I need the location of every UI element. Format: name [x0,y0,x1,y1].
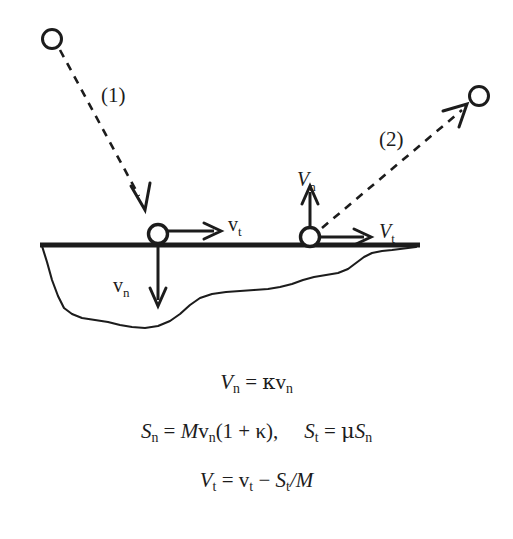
terrain-profile [42,246,416,328]
equation-block: Vn = κvn Sn = Mvn(1 + κ),St = μSn Vt = v… [0,358,513,491]
eq2a-lhs-sub: n [151,430,158,445]
v-n-vector-label: vn [113,274,130,300]
eq2b-rhs-symbol: S [355,419,366,443]
eq2a-relation: = [164,419,176,443]
eq2b-rhs-sub: n [365,430,372,445]
eq1-lhs-sub: n [233,381,240,396]
eq3-term2-symbol: S [276,468,287,492]
incoming-trajectory [60,50,150,210]
outgoing-arrowhead-icon [443,104,467,127]
eq1-rhs-symbol: v [275,370,286,394]
eq3-mass: M [296,468,314,492]
eq3-term2-sub: t [286,479,290,494]
eq3-term1-sub: t [249,479,253,494]
eq2a-velocity-sub: n [209,430,216,445]
eq2a-mass: M [181,419,199,443]
eq3-lhs-symbol: V [200,468,213,492]
incoming-trajectory-line [60,50,139,196]
v-t-vector-label: vt [228,213,242,239]
eq1-rhs-sub: n [286,381,293,396]
eq3-term1-symbol: v [239,468,250,492]
upper-right-particle-icon [470,87,489,106]
eq2b-lhs-sub: t [315,430,319,445]
eq1-lhs-symbol: V [220,370,233,394]
equation-3: Vt = vt − St/M [0,470,513,491]
V-t-vector-label: Vt [379,220,395,246]
trajectory-2-label: (2) [379,127,404,151]
upper-left-particle-icon [43,30,62,49]
outgoing-trajectory [322,104,467,228]
eq3-lhs-sub: t [213,479,217,494]
eq1-relation: = [245,370,257,394]
eq2b-lhs-symbol: S [304,419,315,443]
equation-1: Vn = κvn [0,372,513,393]
impact-diagram: (1) (2) vt vn [0,0,513,360]
eq2b-mu: μ [341,419,355,443]
figure-root: (1) (2) vt vn [0,0,513,539]
left-impact-particle-icon [149,225,168,244]
eq3-relation: = [222,468,234,492]
eq3-operator: − [258,468,270,492]
trajectory-1-label: (1) [101,83,126,107]
right-impact-particle-icon [301,228,320,247]
eq2a-factor: (1 + κ), [216,419,279,443]
eq1-kappa: κ [262,370,275,394]
eq2a-lhs-symbol: S [141,419,152,443]
eq2a-velocity-symbol: v [198,419,209,443]
eq2b-relation: = [324,419,336,443]
equation-2: Sn = Mvn(1 + κ),St = μSn [0,421,513,442]
